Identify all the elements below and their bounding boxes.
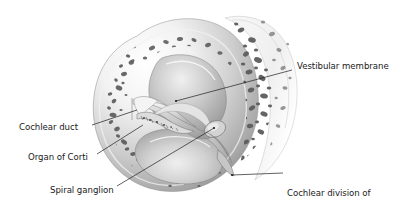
leader-dot-spiral-ganglion — [213, 127, 215, 129]
label-cochlear-duct: Cochlear duct — [19, 122, 78, 132]
leader-dot-vestibular-membrane — [175, 100, 177, 102]
label-organ-of-corti: Organ of Corti — [28, 152, 88, 162]
figure-canvas: Vestibular membrane Cochlear duct Organ … — [0, 0, 405, 208]
leader-dot-cochlear-division-nerve — [231, 174, 233, 176]
label-spiral-ganglion: Spiral ganglion — [50, 185, 114, 195]
label-vestibular-membrane: Vestibular membrane — [297, 61, 389, 71]
label-cochlear-division-nerve-line1: Cochlear division of — [287, 188, 389, 198]
label-cochlear-division-nerve: Cochlear division of vestibulocochlear n… — [287, 168, 389, 208]
